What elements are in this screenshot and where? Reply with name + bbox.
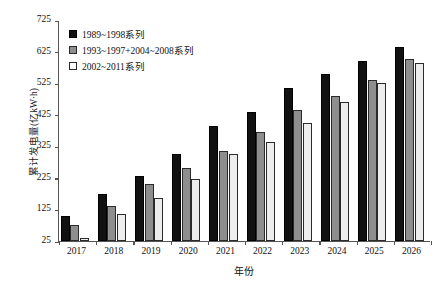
legend-swatch-icon <box>69 30 77 38</box>
legend-label: 1993~1997+2004~2008系列 <box>82 43 194 57</box>
x-tick-mark <box>171 241 172 245</box>
bar <box>377 83 386 241</box>
x-tick-mark <box>208 241 209 245</box>
bar <box>191 179 200 241</box>
bar <box>154 198 163 241</box>
x-tick-mark <box>357 241 358 245</box>
legend-label: 2002~2011系列 <box>82 59 145 73</box>
y-tick-label: 725 <box>17 14 51 24</box>
bar <box>80 238 89 241</box>
bar <box>415 63 424 241</box>
bar <box>340 102 349 241</box>
bar <box>145 184 154 241</box>
y-tick-mark <box>55 21 59 22</box>
bar <box>368 80 377 241</box>
x-tick-mark <box>394 241 395 245</box>
x-tick-mark <box>59 241 60 245</box>
bar <box>293 110 302 241</box>
bar <box>266 142 275 241</box>
legend-swatch-icon <box>69 62 77 70</box>
legend-item: 1989~1998系列 <box>69 26 194 41</box>
x-tick-mark <box>96 241 97 245</box>
x-tick-mark <box>133 241 134 245</box>
y-tick-label: 325 <box>17 140 51 150</box>
bar <box>98 194 107 241</box>
x-tick-mark <box>282 241 283 245</box>
bar <box>117 214 126 241</box>
legend-item: 2002~2011系列 <box>69 58 194 73</box>
bar <box>358 61 367 241</box>
bar <box>70 225 79 241</box>
y-tick-label: 25 <box>17 235 51 245</box>
bar <box>331 96 340 241</box>
bar <box>303 123 312 241</box>
y-axis-title: 累计发电量(亿kW·h) <box>26 47 40 217</box>
bar <box>107 206 116 241</box>
y-tick-mark <box>55 52 59 53</box>
chart-legend: 1989~1998系列1993~1997+2004~2008系列2002~201… <box>69 26 194 74</box>
bar <box>135 176 144 241</box>
y-tick-mark <box>55 84 59 85</box>
bar <box>321 74 330 241</box>
bar <box>219 151 228 241</box>
legend-label: 1989~1998系列 <box>82 27 145 41</box>
legend-swatch-icon <box>69 46 77 54</box>
bar <box>284 88 293 241</box>
x-tick-mark <box>245 241 246 245</box>
y-tick-mark <box>55 115 59 116</box>
y-tick-label: 625 <box>17 46 51 56</box>
x-tick-mark <box>319 241 320 245</box>
bar <box>256 132 265 241</box>
x-axis-title: 年份 <box>58 263 430 278</box>
bar <box>395 47 404 241</box>
bar <box>61 216 70 241</box>
bar-chart: 累计发电量(亿kW·h) 25125225325425525625725 201… <box>0 0 435 282</box>
bar <box>229 154 238 241</box>
bar <box>405 59 414 241</box>
bar <box>209 126 218 241</box>
y-tick-label: 225 <box>17 172 51 182</box>
bar <box>172 154 181 241</box>
y-tick-label: 425 <box>17 109 51 119</box>
bar <box>182 168 191 241</box>
x-tick-mark <box>431 241 432 245</box>
y-tick-mark <box>55 178 59 179</box>
y-tick-label: 525 <box>17 77 51 87</box>
x-tick-label: 2026 <box>389 246 433 256</box>
y-tick-label: 125 <box>17 203 51 213</box>
y-tick-mark <box>55 147 59 148</box>
legend-item: 1993~1997+2004~2008系列 <box>69 42 194 57</box>
bar <box>247 112 256 241</box>
y-tick-mark <box>55 210 59 211</box>
